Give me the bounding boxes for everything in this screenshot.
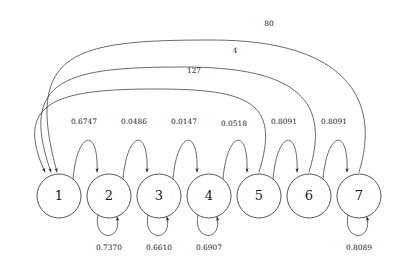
self-loop-label-4: 0.6907 — [196, 243, 222, 252]
forward-edge-6-to-7 — [323, 140, 347, 179]
node-label-7: 7 — [355, 188, 363, 203]
forward-edge-label-6-7: 0.8091 — [321, 117, 347, 126]
node-3: 3 — [137, 174, 181, 218]
node-1: 1 — [37, 174, 81, 218]
node-2: 2 — [87, 174, 131, 218]
self-loop-label-3: 0.6610 — [146, 243, 172, 252]
forward-edge-label-5-6: 0.8091 — [271, 117, 297, 126]
nodes-group: 1234567 — [37, 174, 381, 218]
return-edge-7-to-1 — [47, 40, 365, 172]
node-label-5: 5 — [255, 188, 263, 203]
return-edge-label-6-1: 4 — [233, 46, 238, 55]
forward-edge-2-to-3 — [123, 140, 147, 179]
forward-edge-label-2-3: 0.0486 — [121, 117, 147, 126]
diagram-canvas: 1234567 0.67470.04860.01470.05180.80910.… — [0, 0, 397, 275]
forward-edge-3-to-4 — [173, 140, 197, 179]
node-7: 7 — [337, 174, 381, 218]
self-loop-label-2: 0.7370 — [96, 243, 122, 252]
forward-edge-label-4-5: 0.0518 — [221, 119, 247, 128]
forward-edge-5-to-6 — [273, 140, 297, 179]
state-transition-diagram: 1234567 0.67470.04860.01470.05180.80910.… — [0, 0, 397, 275]
node-label-1: 1 — [55, 188, 63, 203]
node-5: 5 — [237, 174, 281, 218]
return-edge-5-to-1 — [35, 89, 266, 172]
node-label-4: 4 — [205, 188, 213, 203]
forward-edges-group — [73, 140, 347, 179]
forward-edge-label-3-4: 0.0147 — [171, 117, 197, 126]
forward-edge-label-1-2: 0.6747 — [71, 117, 97, 126]
node-label-3: 3 — [155, 188, 163, 203]
forward-edge-1-to-2 — [73, 140, 97, 179]
forward-edge-4-to-5 — [223, 140, 247, 179]
self-loops-group — [97, 215, 368, 236]
self-loop-label-7: 0.8089 — [346, 243, 372, 252]
node-6: 6 — [287, 174, 331, 218]
node-4: 4 — [187, 174, 231, 218]
return-edge-label-7-1: 80 — [264, 19, 274, 28]
node-label-6: 6 — [305, 188, 313, 203]
return-edge-label-5-1: 127 — [187, 66, 201, 75]
return-edges-group — [35, 40, 366, 172]
node-label-2: 2 — [105, 188, 113, 203]
